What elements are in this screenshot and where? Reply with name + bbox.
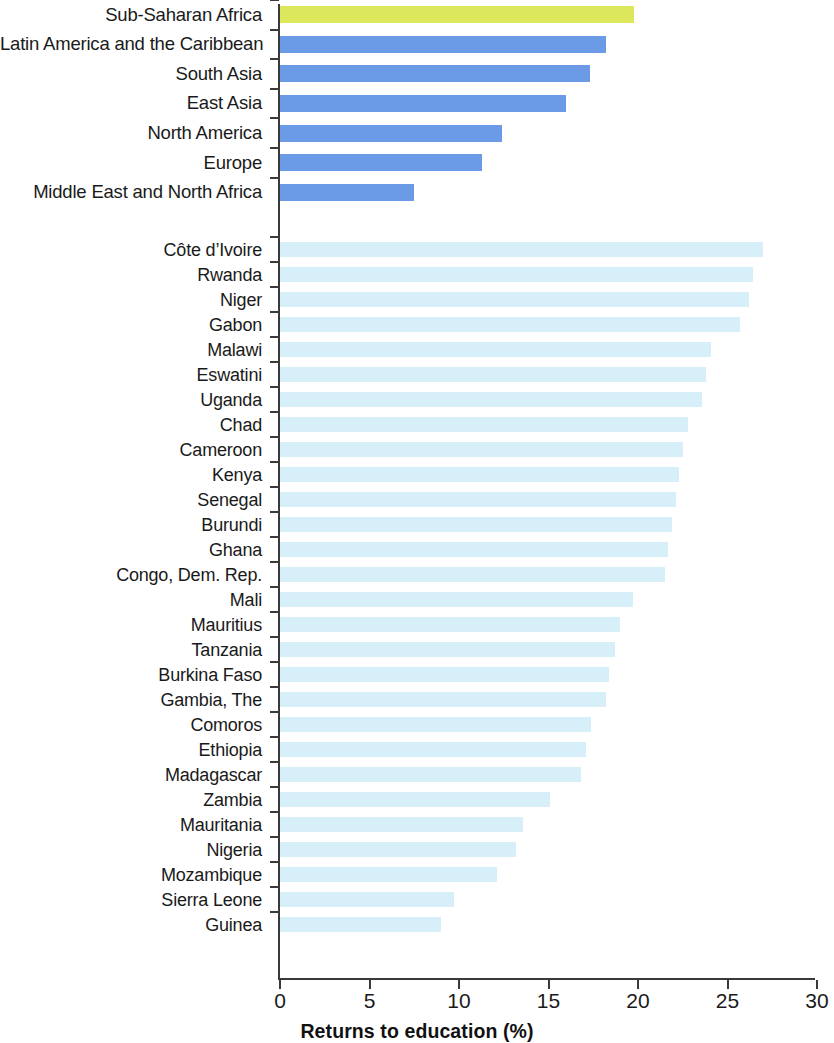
y-axis-tick — [270, 811, 279, 813]
bar-row: Nigeria — [0, 837, 834, 862]
bar-track — [280, 587, 834, 612]
y-axis-tick — [270, 861, 279, 863]
x-axis-title: Returns to education (%) — [0, 1020, 834, 1043]
x-axis-tick-label: 15 — [537, 990, 560, 1011]
bar — [280, 492, 676, 507]
bar-row: Burundi — [0, 512, 834, 537]
y-axis-tick — [270, 0, 279, 1]
bar-row-label: Côte d’Ivoire — [0, 241, 272, 259]
bar — [280, 184, 414, 201]
bar-row: Tanzania — [0, 637, 834, 662]
bar-row: Senegal — [0, 487, 834, 512]
y-axis-tick — [270, 511, 279, 513]
x-axis-tick — [727, 980, 729, 989]
bar-track — [280, 762, 834, 787]
bar — [280, 442, 683, 457]
bar — [280, 517, 672, 532]
bar-row: Ethiopia — [0, 737, 834, 762]
y-axis-tick — [270, 711, 279, 713]
bar — [280, 95, 566, 112]
bar-track — [280, 412, 834, 437]
bar-row-label: Uganda — [0, 391, 272, 409]
bar-row-label: Europe — [0, 154, 272, 173]
bar-track — [280, 178, 834, 208]
bar-track — [280, 262, 834, 287]
bar-track — [280, 437, 834, 462]
bar-row-label: Tanzania — [0, 641, 272, 659]
x-axis-tick — [816, 980, 818, 989]
bar-row-label: Zambia — [0, 791, 272, 809]
y-axis-tick — [270, 117, 279, 119]
bar-track — [280, 337, 834, 362]
bar-track — [280, 737, 834, 762]
bar-row: East Asia — [0, 89, 834, 119]
x-axis-tick — [369, 980, 371, 989]
bar — [280, 642, 615, 657]
bar-row: Latin America and the Caribbean — [0, 30, 834, 60]
x-axis-tick-label: 5 — [364, 990, 376, 1011]
bar — [280, 717, 591, 732]
x-axis-line — [278, 978, 815, 980]
bar-row: Gabon — [0, 312, 834, 337]
bar — [280, 667, 609, 682]
x-axis-tick-label: 20 — [626, 990, 649, 1011]
bar-track — [280, 662, 834, 687]
bar — [280, 567, 665, 582]
y-axis-tick — [270, 286, 279, 288]
bar-track — [280, 612, 834, 637]
bar — [280, 617, 620, 632]
bar-row-label: Nigeria — [0, 841, 272, 859]
bar — [280, 6, 634, 23]
bar-row-label: Mauritius — [0, 616, 272, 634]
bar-row-label: Niger — [0, 291, 272, 309]
bar-row: Congo, Dem. Rep. — [0, 562, 834, 587]
bar-row: Rwanda — [0, 262, 834, 287]
y-axis-tick — [270, 461, 279, 463]
bar-row: Europe — [0, 148, 834, 178]
y-axis-tick — [270, 436, 279, 438]
bar-track — [280, 148, 834, 178]
x-axis-tick — [548, 980, 550, 989]
y-axis-tick — [270, 586, 279, 588]
y-axis-tick — [270, 886, 279, 888]
bar-track — [280, 787, 834, 812]
bar-row: Ghana — [0, 537, 834, 562]
bar-row-label: Gambia, The — [0, 691, 272, 709]
bar — [280, 817, 523, 832]
bar-track — [280, 837, 834, 862]
y-axis-tick — [270, 661, 279, 663]
y-axis-tick — [270, 261, 279, 263]
bar — [280, 792, 550, 807]
bar — [280, 317, 740, 332]
x-axis-tick — [279, 980, 281, 989]
bar-track — [280, 387, 834, 412]
bar-track — [280, 887, 834, 912]
bar-row: Burkina Faso — [0, 662, 834, 687]
bar-row: Mauritius — [0, 612, 834, 637]
bar — [280, 592, 633, 607]
bar — [280, 742, 586, 757]
bar-row-label: Madagascar — [0, 766, 272, 784]
bar-track — [280, 362, 834, 387]
bar-row-label: Gabon — [0, 316, 272, 334]
bar-track — [280, 59, 834, 89]
bar-row: Côte d’Ivoire — [0, 237, 834, 262]
x-axis-tick-label: 0 — [274, 990, 286, 1011]
bar-rows-container: Sub-Saharan AfricaLatin America and the … — [0, 0, 834, 937]
bar-row: Malawi — [0, 337, 834, 362]
bar-row-label: Sierra Leone — [0, 891, 272, 909]
bar — [280, 467, 679, 482]
bar-row-label: Mozambique — [0, 866, 272, 884]
y-axis-tick — [270, 311, 279, 313]
y-axis-tick — [270, 486, 279, 488]
y-axis-tick — [270, 236, 279, 238]
bar-row-label: Comoros — [0, 716, 272, 734]
x-axis-tick-label: 30 — [805, 990, 828, 1011]
y-axis-tick — [270, 386, 279, 388]
bar — [280, 867, 497, 882]
x-axis-tick-label: 25 — [716, 990, 739, 1011]
y-axis-tick — [270, 636, 279, 638]
y-axis-tick — [270, 361, 279, 363]
bar-track — [280, 562, 834, 587]
